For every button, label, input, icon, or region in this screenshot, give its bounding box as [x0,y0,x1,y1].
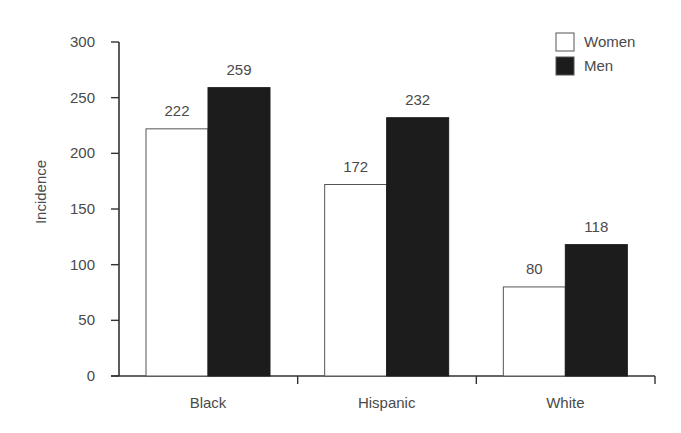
y-tick-label: 100 [70,256,95,273]
bars: 222259Black172232Hispanic80118White [146,61,627,411]
bar-men-black [208,88,270,376]
data-label: 232 [405,91,430,108]
bar-men-hispanic [387,118,449,376]
legend-item-women: Women [556,33,635,51]
legend-swatch [556,57,574,75]
y-axis-label: Incidence [32,160,49,224]
x-tick-label: White [546,394,584,411]
data-label: 80 [526,260,543,277]
bar-chart: 050100150200250300 222259Black172232Hisp… [0,0,681,433]
bar-women-white [503,287,565,376]
y-tick-label: 150 [70,200,95,217]
legend-label: Men [584,57,613,74]
data-label: 222 [164,102,189,119]
y-tick-label: 300 [70,33,95,50]
y-tick-label: 0 [87,367,95,384]
y-tick-label: 200 [70,144,95,161]
bar-group-hispanic: 172232Hispanic [325,91,449,411]
y-tick-label: 50 [78,311,95,328]
x-tick-label: Hispanic [358,394,416,411]
legend-item-men: Men [556,57,613,75]
data-label: 118 [584,218,608,235]
legend-swatch [556,33,574,51]
data-label: 172 [343,158,368,175]
bar-women-hispanic [325,185,387,376]
data-label: 259 [226,61,251,78]
x-tick-label: Black [190,394,227,411]
y-axis: 050100150200250300 [70,33,119,384]
bar-group-white: 80118White [503,218,627,411]
y-tick-label: 250 [70,89,95,106]
bar-men-white [565,245,627,376]
bar-group-black: 222259Black [146,61,270,411]
x-axis [111,376,655,384]
legend-label: Women [584,33,635,50]
bar-women-black [146,129,208,376]
chart-canvas: 050100150200250300 222259Black172232Hisp… [0,0,681,433]
legend: WomenMen [556,33,635,75]
